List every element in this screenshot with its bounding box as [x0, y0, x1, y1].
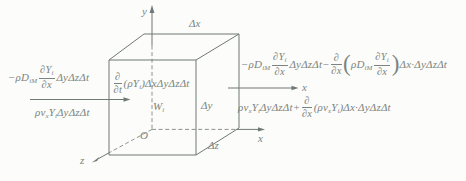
fraction-denominator: ∂x [302, 108, 312, 120]
cube-right-face [196, 34, 239, 155]
fraction-numerator: ∂ [114, 71, 123, 84]
eq-convection-outflow: ρvxYiΔyΔzΔt+∂∂x(ρvxYi)Δx·ΔyΔzΔt [238, 96, 391, 120]
minus-operator: − [322, 58, 330, 70]
space-derivative-fraction: ∂∂x [302, 95, 312, 119]
fraction-denominator: ∂x [331, 65, 341, 77]
derivative-fraction: ∂Yi∂x [39, 64, 55, 90]
dimension-dy-label: Δy [201, 100, 212, 111]
eq-term-deltas: ΔyΔzΔt [289, 58, 322, 70]
eq-diffusion-outflow: −ρDiM∂Yi∂xΔyΔzΔt−∂∂x(ρDiM∂Yi∂x)Δx·ΔyΔzΔt [241, 52, 447, 78]
numerator-text: ∂Y [273, 51, 284, 62]
eq-term-rho-v-2: ρv [318, 101, 329, 113]
fraction-denominator: ∂t [114, 84, 123, 96]
y-axis-arrowhead [150, 5, 155, 13]
x-flux-direction-label: x [302, 82, 307, 93]
eq-term-deltas: ΔxΔyΔzΔt [145, 77, 190, 89]
close-paren: ) [392, 51, 400, 76]
eq-term-deltas: ΔyΔzΔt [57, 106, 90, 118]
source-term-subscript: i [162, 106, 164, 114]
eq-term-coefficient: −ρD [8, 71, 29, 83]
eq-term-rho-v: ρv [238, 101, 249, 113]
source-term-base: W [153, 100, 162, 112]
eq-storage-term: ∂∂t(ρYi)ΔxΔyΔzΔt [112, 72, 190, 96]
numerator-subscript: i [284, 56, 286, 64]
outflow-arrowhead [292, 86, 299, 90]
x-axis-label: x [258, 133, 263, 144]
numerator-subscript: i [51, 69, 53, 77]
dimension-dx-label: Δx [189, 18, 200, 29]
eq-diffusion-inflow: −ρDiM∂Yi∂xΔyΔzΔt [8, 65, 89, 91]
derivative-fraction-2: ∂Yi∂x [374, 51, 390, 77]
open-paren: ( [343, 51, 351, 76]
eq-convection-inflow: ρvxYiΔyΔzΔt [35, 106, 90, 123]
eq-term-rho-v: ρv [35, 106, 46, 118]
control-volume-species-balance-figure: y z O x x Δx Δy Δz Wi −ρDiM∂Yi∂xΔyΔzΔt ρ… [0, 0, 466, 181]
eq-term-deltas-2: Δx·ΔyΔzΔt [400, 58, 447, 70]
fraction-numerator: ∂ [331, 52, 341, 65]
time-derivative-fraction: ∂∂t [114, 71, 123, 95]
y-axis-label: y [142, 6, 147, 17]
x-axis-arrowhead [258, 127, 265, 131]
fraction-numerator: ∂Yi [374, 51, 390, 66]
derivative-fraction: ∂Yi∂x [272, 51, 288, 77]
eq-coefficient-subscript: iM [29, 77, 37, 85]
eq-term-rho-y: ρY [127, 77, 139, 89]
fraction-numerator: ∂Yi [272, 51, 288, 66]
z-axis-label: z [80, 155, 84, 166]
eq-term-deltas: ΔyΔzΔt [56, 71, 89, 83]
fraction-denominator: ∂x [39, 79, 55, 91]
numerator-subscript: i [387, 56, 389, 64]
cube-top-face [109, 34, 239, 60]
numerator-text: ∂Y [375, 51, 386, 62]
z-axis-arrowhead [92, 157, 99, 162]
fraction-denominator: ∂x [272, 66, 288, 78]
source-term-label: Wi [153, 101, 164, 114]
eq-term-coefficient-2: ρD [351, 58, 365, 70]
fraction-numerator: ∂ [302, 95, 312, 108]
eq-coefficient-2-subscript: iM [365, 64, 373, 72]
fraction-numerator: ∂Yi [39, 64, 55, 79]
numerator-text: ∂Y [40, 64, 51, 75]
space-derivative-fraction: ∂∂x [331, 52, 341, 76]
fraction-denominator: ∂x [374, 66, 390, 78]
origin-label: O [140, 130, 148, 141]
eq-coefficient-subscript: iM [262, 64, 270, 72]
eq-term-deltas: ΔyΔzΔt [260, 101, 293, 113]
plus-operator: + [293, 101, 301, 113]
inflow-arrowhead [124, 97, 131, 101]
z-axis-line [98, 153, 110, 159]
dimension-dz-label: Δz [208, 140, 219, 151]
eq-term-deltas-2: Δx·ΔyΔzΔt [343, 101, 390, 113]
eq-term-coefficient: −ρD [241, 58, 262, 70]
